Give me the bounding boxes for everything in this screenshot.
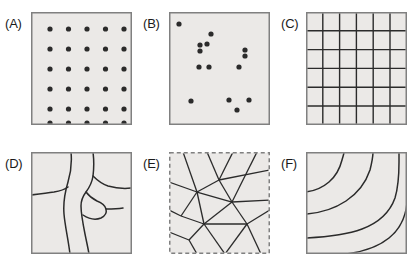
panel-f-frame [307, 153, 407, 254]
panel-b-random-clustered-point-pattern [169, 12, 270, 125]
point-marker [206, 64, 211, 69]
point-marker [47, 86, 52, 91]
point-marker [47, 66, 52, 71]
point-marker [66, 66, 71, 71]
point-marker [208, 31, 213, 36]
point-marker [197, 42, 202, 47]
panel-c-regular-grid-tessellation [306, 12, 407, 125]
panel-a-frame [32, 13, 132, 125]
panel-label-b: (B) [143, 17, 160, 30]
panel-a-regular-point-lattice [31, 12, 132, 125]
point-marker [84, 106, 89, 111]
point-marker [84, 46, 89, 51]
panel-f-nested-contour-curves [306, 152, 407, 254]
point-marker [84, 66, 89, 71]
point-marker [121, 86, 126, 91]
point-marker [84, 26, 89, 31]
panel-label-e: (E) [143, 157, 160, 170]
point-marker [103, 66, 108, 71]
point-marker [84, 86, 89, 91]
point-marker [204, 41, 209, 46]
point-marker [197, 48, 202, 53]
panel-label-c: (C) [281, 17, 298, 30]
point-marker [66, 26, 71, 31]
point-marker [242, 47, 247, 52]
point-marker [47, 26, 52, 31]
panel-label-a: (A) [5, 17, 22, 30]
point-marker [121, 106, 126, 111]
point-marker [236, 64, 241, 69]
panel-label-f: (F) [281, 157, 297, 170]
panel-label-d: (D) [5, 157, 22, 170]
point-marker [188, 98, 193, 103]
point-marker [103, 46, 108, 51]
point-marker [66, 46, 71, 51]
point-marker [103, 86, 108, 91]
point-marker [234, 107, 239, 112]
point-marker [103, 106, 108, 111]
point-marker [246, 97, 251, 102]
point-marker [176, 21, 181, 26]
panel-e-triangulated-irregular-network [169, 152, 270, 254]
point-marker [103, 26, 108, 31]
point-marker [121, 26, 126, 31]
panel-b-frame [170, 13, 270, 125]
point-marker [47, 106, 52, 111]
point-marker [121, 46, 126, 51]
point-marker [226, 97, 231, 102]
spatial-pattern-figure: (A)(B)(C)(D)(E)(F) [0, 0, 419, 264]
point-marker [66, 106, 71, 111]
point-marker [66, 86, 71, 91]
point-marker [121, 66, 126, 71]
point-marker [47, 46, 52, 51]
point-marker [242, 53, 247, 58]
panel-d-irregular-polygonal-cells [31, 152, 132, 254]
point-marker [196, 64, 201, 69]
